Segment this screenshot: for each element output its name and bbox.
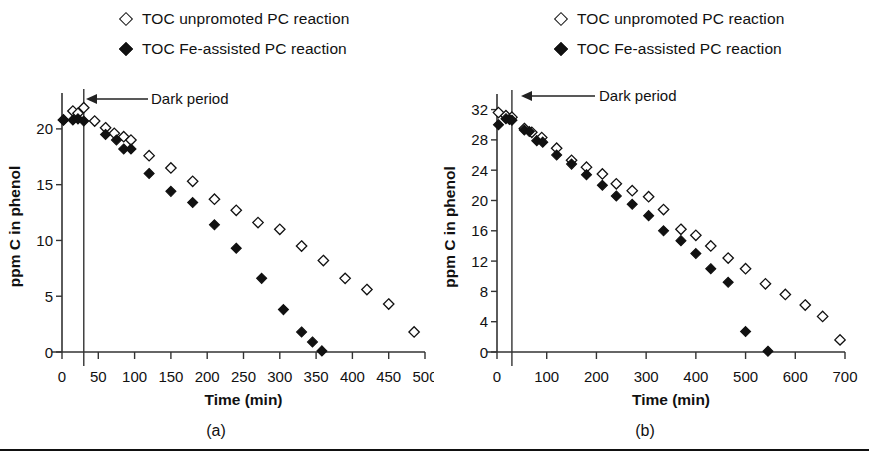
x-tick-label: 0 — [493, 368, 501, 385]
x-tick-label: 300 — [267, 368, 292, 385]
data-point-unpromoted — [723, 253, 733, 263]
data-point-unpromoted — [318, 255, 328, 265]
data-point-fe-assisted — [307, 337, 317, 347]
data-point-unpromoted — [760, 279, 770, 289]
data-point-fe-assisted — [627, 199, 637, 209]
data-point-unpromoted — [817, 311, 827, 321]
x-tick-label: 400 — [683, 368, 708, 385]
y-tick-label: 12 — [471, 253, 488, 270]
data-point-fe-assisted — [126, 144, 136, 154]
y-tick-label: 28 — [471, 131, 488, 148]
y-tick-label: 20 — [471, 192, 488, 209]
data-point-unpromoted — [627, 185, 637, 195]
panel-caption: (b) — [635, 422, 655, 439]
y-tick-label: 0 — [45, 344, 53, 361]
y-tick-label: 16 — [471, 222, 488, 239]
x-tick-label: 200 — [195, 368, 220, 385]
annotation-arrow-head — [86, 94, 97, 104]
data-point-unpromoted — [296, 241, 306, 251]
y-axis-title: ppm C in phenol — [6, 166, 23, 287]
y-tick-label: 32 — [471, 101, 488, 118]
data-point-unpromoted — [409, 327, 419, 337]
data-point-unpromoted — [340, 273, 350, 283]
data-point-unpromoted — [658, 204, 668, 214]
x-tick-label: 300 — [634, 368, 659, 385]
x-tick-label: 0 — [58, 368, 66, 385]
x-tick-label: 250 — [231, 368, 256, 385]
data-point-unpromoted — [144, 150, 154, 160]
data-point-unpromoted — [384, 299, 394, 309]
data-point-fe-assisted — [297, 327, 307, 337]
data-point-unpromoted — [611, 179, 621, 189]
y-tick-label: 24 — [471, 162, 488, 179]
annotation-arrow-head — [521, 91, 532, 101]
data-point-fe-assisted — [188, 198, 198, 208]
data-point-fe-assisted — [691, 249, 701, 259]
x-axis-title: Time (min) — [632, 391, 710, 408]
y-tick-label: 4 — [480, 313, 488, 330]
data-point-unpromoted — [275, 224, 285, 234]
x-tick-label: 600 — [783, 368, 808, 385]
data-point-unpromoted — [231, 205, 241, 215]
x-tick-label: 200 — [584, 368, 609, 385]
data-point-unpromoted — [597, 169, 607, 179]
data-point-unpromoted — [362, 284, 372, 294]
data-point-fe-assisted — [278, 305, 288, 315]
data-point-fe-assisted — [611, 191, 621, 201]
data-point-fe-assisted — [209, 220, 219, 230]
data-point-fe-assisted — [552, 150, 562, 160]
x-tick-label: 150 — [158, 368, 183, 385]
chart-panel-b: TOC unpromoted PC reaction TOC Fe-assist… — [435, 0, 869, 451]
data-point-unpromoted — [166, 163, 176, 173]
chart-panel-a: TOC unpromoted PC reaction TOC Fe-assist… — [0, 0, 434, 451]
x-tick-label: 350 — [304, 368, 329, 385]
y-tick-label: 20 — [36, 120, 53, 137]
data-point-unpromoted — [253, 217, 263, 227]
data-point-fe-assisted — [166, 186, 176, 196]
data-point-unpromoted — [740, 263, 750, 273]
data-point-unpromoted — [800, 300, 810, 310]
scatter-plot-b: 0481216202428320100200300400500600700Dar… — [435, 0, 869, 451]
data-point-unpromoted — [691, 230, 701, 240]
x-tick-label: 100 — [534, 368, 559, 385]
data-point-fe-assisted — [597, 180, 607, 190]
panel-caption: (a) — [206, 422, 226, 439]
data-point-fe-assisted — [493, 120, 503, 130]
data-point-unpromoted — [780, 289, 790, 299]
data-point-unpromoted — [643, 191, 653, 201]
data-point-unpromoted — [676, 224, 686, 234]
y-tick-label: 8 — [480, 283, 488, 300]
scatter-plot-a: 05101520050100150200250300350400450500Da… — [0, 0, 434, 451]
data-point-fe-assisted — [101, 129, 111, 139]
data-point-fe-assisted — [644, 211, 654, 221]
data-point-fe-assisted — [763, 346, 773, 356]
data-point-unpromoted — [835, 335, 845, 345]
dark-period-annotation: Dark period — [151, 90, 229, 107]
y-tick-label: 5 — [45, 288, 53, 305]
data-point-unpromoted — [187, 176, 197, 186]
data-point-fe-assisted — [581, 170, 591, 180]
data-point-unpromoted — [89, 116, 99, 126]
data-point-fe-assisted — [144, 169, 154, 179]
data-point-fe-assisted — [723, 277, 733, 287]
y-tick-label: 10 — [36, 232, 53, 249]
x-axis-title: Time (min) — [204, 391, 282, 408]
data-point-fe-assisted — [231, 243, 241, 253]
data-point-fe-assisted — [659, 226, 669, 236]
x-tick-label: 50 — [90, 368, 107, 385]
y-axis-title: ppm C in phenol — [441, 166, 458, 287]
y-tick-label: 0 — [480, 344, 488, 361]
data-point-unpromoted — [706, 241, 716, 251]
x-tick-label: 500 — [733, 368, 758, 385]
x-tick-label: 700 — [832, 368, 857, 385]
x-tick-label: 100 — [122, 368, 147, 385]
x-tick-label: 500 — [412, 368, 434, 385]
data-point-fe-assisted — [257, 273, 267, 283]
data-point-fe-assisted — [741, 327, 751, 337]
data-point-unpromoted — [209, 194, 219, 204]
data-point-fe-assisted — [317, 346, 327, 356]
x-tick-label: 450 — [376, 368, 401, 385]
data-point-fe-assisted — [58, 115, 68, 125]
dark-period-annotation: Dark period — [599, 87, 677, 104]
data-point-fe-assisted — [676, 236, 686, 246]
